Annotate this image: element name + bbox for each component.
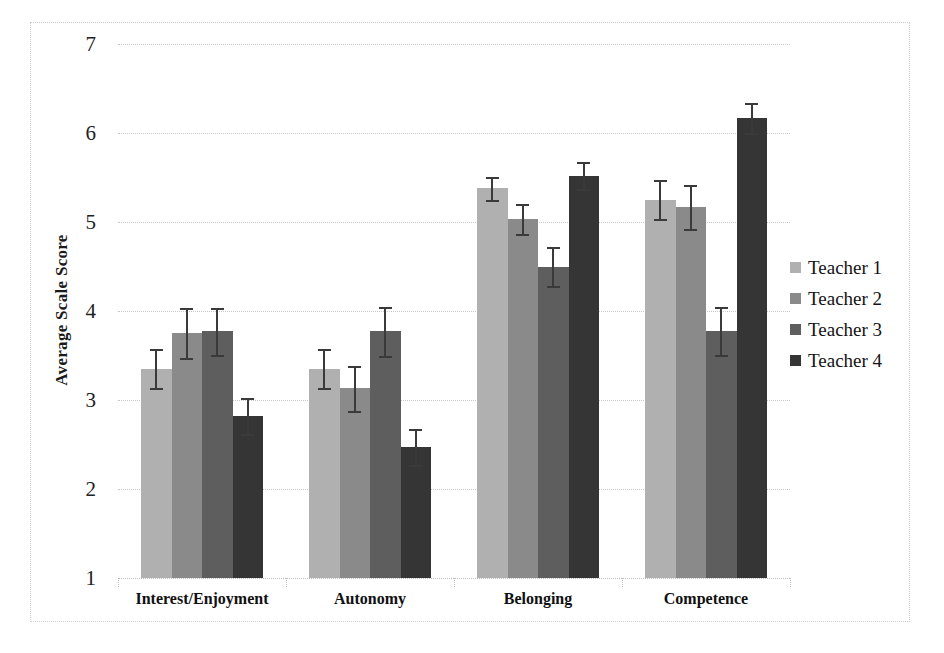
x-axis-category-label: Competence — [664, 590, 748, 608]
error-bar-cap-upper — [684, 185, 697, 187]
bar — [309, 369, 340, 578]
error-bar-cap-lower — [715, 355, 728, 357]
bar — [370, 331, 401, 578]
error-bar — [354, 366, 356, 411]
error-bar-cap-lower — [409, 465, 422, 467]
error-bar — [323, 349, 325, 388]
error-bar — [552, 247, 554, 286]
error-bar-cap-upper — [654, 180, 667, 182]
x-axis-category-label: Belonging — [504, 590, 572, 608]
y-axis-tick-label: 6 — [86, 121, 97, 146]
legend-item[interactable]: Teacher 2 — [790, 283, 882, 314]
error-bar — [690, 185, 692, 230]
error-bar-cap-lower — [654, 219, 667, 221]
bar — [508, 219, 539, 578]
x-axis-tick — [118, 578, 119, 587]
legend-swatch-icon — [790, 355, 801, 366]
bar — [645, 200, 676, 578]
error-bar-cap-upper — [547, 247, 560, 249]
y-axis-tick-label: 5 — [86, 210, 97, 235]
bar — [202, 331, 233, 578]
legend-swatch-icon — [790, 324, 801, 335]
bar — [141, 369, 172, 578]
error-bar-cap-upper — [150, 349, 163, 351]
error-bar-cap-upper — [715, 307, 728, 309]
legend-swatch-icon — [790, 262, 801, 273]
error-bar — [247, 398, 249, 434]
error-bar-cap-upper — [486, 177, 499, 179]
error-bar-cap-lower — [745, 133, 758, 135]
error-bar-cap-lower — [318, 388, 331, 390]
error-bar-cap-upper — [745, 103, 758, 105]
legend-item-label: Teacher 2 — [808, 288, 882, 310]
legend-item[interactable]: Teacher 3 — [790, 314, 882, 345]
gridline — [118, 133, 790, 134]
y-axis-tick-label: 1 — [86, 566, 97, 591]
plot-area: 1234567 — [118, 44, 790, 578]
error-bar-cap-lower — [684, 229, 697, 231]
gridline — [118, 44, 790, 45]
x-axis-category-label: Autonomy — [334, 590, 406, 608]
x-axis-tick — [286, 578, 287, 587]
bar — [477, 188, 508, 578]
legend-item[interactable]: Teacher 1 — [790, 252, 882, 283]
bar — [233, 416, 264, 578]
bar — [676, 207, 707, 578]
error-bar — [216, 308, 218, 354]
error-bar — [659, 180, 661, 219]
error-bar-cap-upper — [180, 308, 193, 310]
error-bar — [491, 177, 493, 200]
y-axis-tick-label: 7 — [86, 32, 97, 57]
bar — [172, 333, 203, 578]
error-bar-cap-upper — [241, 398, 254, 400]
error-bar-cap-upper — [379, 307, 392, 309]
error-bar — [186, 308, 188, 358]
error-bar-cap-lower — [348, 411, 361, 413]
error-bar-cap-upper — [409, 429, 422, 431]
error-bar-cap-upper — [577, 162, 590, 164]
y-axis-tick-label: 2 — [86, 477, 97, 502]
error-bar-cap-lower — [180, 358, 193, 360]
error-bar — [720, 307, 722, 355]
error-bar-cap-lower — [577, 189, 590, 191]
error-bar-cap-upper — [348, 366, 361, 368]
error-bar-cap-lower — [486, 200, 499, 202]
legend-item-label: Teacher 3 — [808, 319, 882, 341]
bar — [569, 176, 600, 578]
error-bar-cap-upper — [211, 308, 224, 310]
legend-item[interactable]: Teacher 4 — [790, 345, 882, 376]
error-bar — [751, 103, 753, 133]
error-bar-cap-lower — [547, 286, 560, 288]
error-bar-cap-lower — [211, 355, 224, 357]
error-bar-cap-lower — [516, 234, 529, 236]
legend-swatch-icon — [790, 293, 801, 304]
x-axis-tick — [454, 578, 455, 587]
error-bar — [155, 349, 157, 388]
x-axis-tick — [790, 578, 791, 587]
error-bar — [415, 429, 417, 465]
legend-item-label: Teacher 4 — [808, 350, 882, 372]
error-bar-cap-lower — [150, 388, 163, 390]
bar — [538, 267, 569, 579]
error-bar-cap-lower — [241, 434, 254, 436]
error-bar-cap-lower — [379, 356, 392, 358]
y-axis-title: Average Scale Score — [52, 190, 72, 430]
bar — [706, 331, 737, 578]
legend-item-label: Teacher 1 — [808, 257, 882, 279]
x-axis-tick — [622, 578, 623, 587]
x-axis-category-label: Interest/Enjoyment — [135, 590, 268, 608]
bar — [340, 388, 371, 578]
error-bar — [522, 204, 524, 234]
error-bar — [583, 162, 585, 189]
y-axis-tick-label: 4 — [86, 299, 97, 324]
y-axis-tick-label: 3 — [86, 388, 97, 413]
error-bar-cap-upper — [516, 204, 529, 206]
error-bar — [384, 307, 386, 357]
bar-chart-figure: Average Scale Score 1234567 Teacher 1Tea… — [0, 0, 944, 653]
bar — [737, 118, 768, 578]
error-bar-cap-upper — [318, 349, 331, 351]
chart-legend: Teacher 1Teacher 2Teacher 3Teacher 4 — [790, 252, 882, 376]
